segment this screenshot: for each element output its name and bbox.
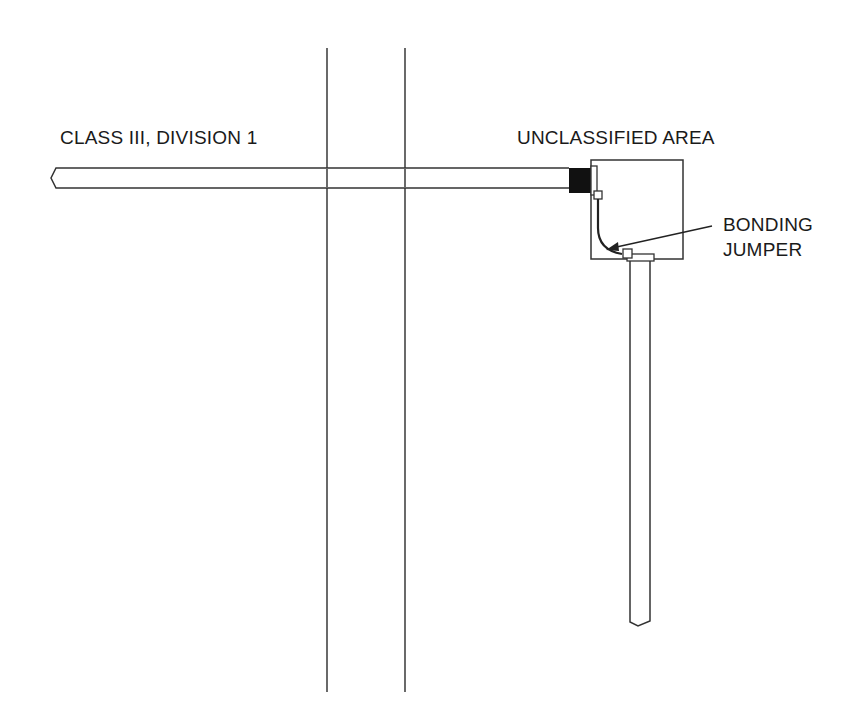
- bonding-jumper-label-line2: JUMPER: [723, 239, 802, 261]
- conduit-seal: [569, 168, 591, 193]
- unclassified-area-label: UNCLASSIFIED AREA: [517, 127, 715, 149]
- hazardous-area-label: CLASS III, DIVISION 1: [60, 127, 257, 149]
- arrow-head-icon: [606, 242, 619, 251]
- leader-line: [612, 226, 712, 248]
- diagram-canvas: [0, 0, 865, 726]
- bonding-terminal-bottom: [623, 249, 632, 258]
- bonding-terminal-top: [594, 191, 602, 199]
- enclosure-box: [591, 160, 683, 259]
- vertical-conduit: [630, 261, 650, 626]
- horizontal-conduit: [51, 168, 569, 188]
- bonding-jumper-label-line1: BONDING: [723, 214, 813, 236]
